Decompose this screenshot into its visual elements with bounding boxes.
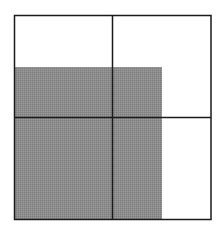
grid-shading-diagram [0, 0, 224, 228]
shaded-region [15, 67, 162, 219]
